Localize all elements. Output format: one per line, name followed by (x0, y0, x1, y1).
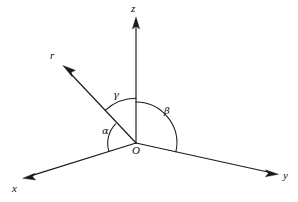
y-axis-label: y (283, 170, 288, 181)
angle-gamma-arc (105, 98, 136, 110)
x-axis-line (32, 143, 137, 176)
y-axis-arrowhead (265, 170, 278, 177)
angle-beta-label: β (164, 106, 170, 116)
x-axis-label: x (12, 183, 17, 194)
axes-svg-canvas (0, 0, 298, 202)
y-axis-line (136, 143, 269, 172)
x-axis-arrowhead (23, 173, 36, 180)
z-axis-label: z (131, 3, 135, 14)
r-vector-arrowhead (63, 66, 76, 77)
r-vector-label: r (50, 50, 54, 61)
origin-label: O (132, 145, 140, 156)
angle-alpha-label: α (102, 126, 109, 136)
angle-gamma-label: γ (113, 90, 119, 100)
coordinate-axes-diagram: z r x y O α β γ (0, 0, 298, 202)
